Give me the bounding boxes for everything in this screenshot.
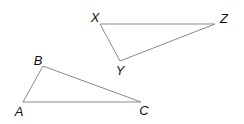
vertex-label-y: Y [116, 63, 126, 78]
vertex-label-z: Z [219, 11, 229, 26]
triangles-diagram: X Y Z A B C [0, 0, 244, 124]
vertex-label-a: A [14, 104, 24, 119]
vertex-label-x: X [90, 10, 101, 25]
vertex-label-b: B [34, 53, 43, 68]
vertex-label-c: C [139, 103, 149, 118]
triangle-xyz [100, 24, 215, 61]
